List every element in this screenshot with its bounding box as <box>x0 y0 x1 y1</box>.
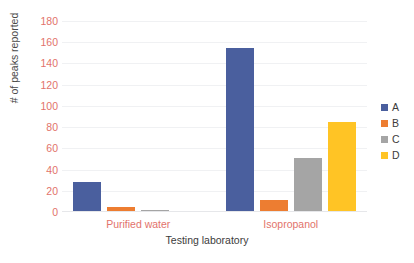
legend-item-b[interactable]: B <box>381 115 414 131</box>
axis-baseline <box>62 211 367 212</box>
x-axis-category-label: Purified water <box>62 218 215 230</box>
bar-c-isopropanol <box>294 158 322 212</box>
x-axis-title: Testing laboratory <box>0 234 414 246</box>
legend: ABCD <box>381 99 414 163</box>
x-axis-category-label: Isopropanol <box>215 218 368 230</box>
legend-item-d[interactable]: D <box>381 147 414 163</box>
legend-swatch-icon <box>381 152 388 159</box>
legend-label: A <box>392 102 399 113</box>
bar-group <box>215 21 368 212</box>
y-axis-tick-label: 60 <box>4 143 58 154</box>
legend-label: C <box>392 134 400 145</box>
y-axis-title: # of peaks reported <box>8 0 20 128</box>
bar-a-isopropanol <box>226 48 254 212</box>
bar-a-purified-water <box>73 182 101 212</box>
bar-group <box>62 21 215 212</box>
plot-area <box>62 21 367 212</box>
legend-label: D <box>392 150 400 161</box>
legend-item-a[interactable]: A <box>381 99 414 115</box>
bar-chart: 180160140120100806040200 # of peaks repo… <box>0 0 414 263</box>
y-axis-tick-label: 20 <box>4 186 58 197</box>
y-axis-tick-label: 0 <box>4 207 58 218</box>
legend-swatch-icon <box>381 136 388 143</box>
legend-item-c[interactable]: C <box>381 131 414 147</box>
y-axis-tick-label: 40 <box>4 164 58 175</box>
legend-swatch-icon <box>381 120 388 127</box>
bar-d-isopropanol <box>328 122 356 212</box>
legend-swatch-icon <box>381 104 388 111</box>
legend-label: B <box>392 118 399 129</box>
